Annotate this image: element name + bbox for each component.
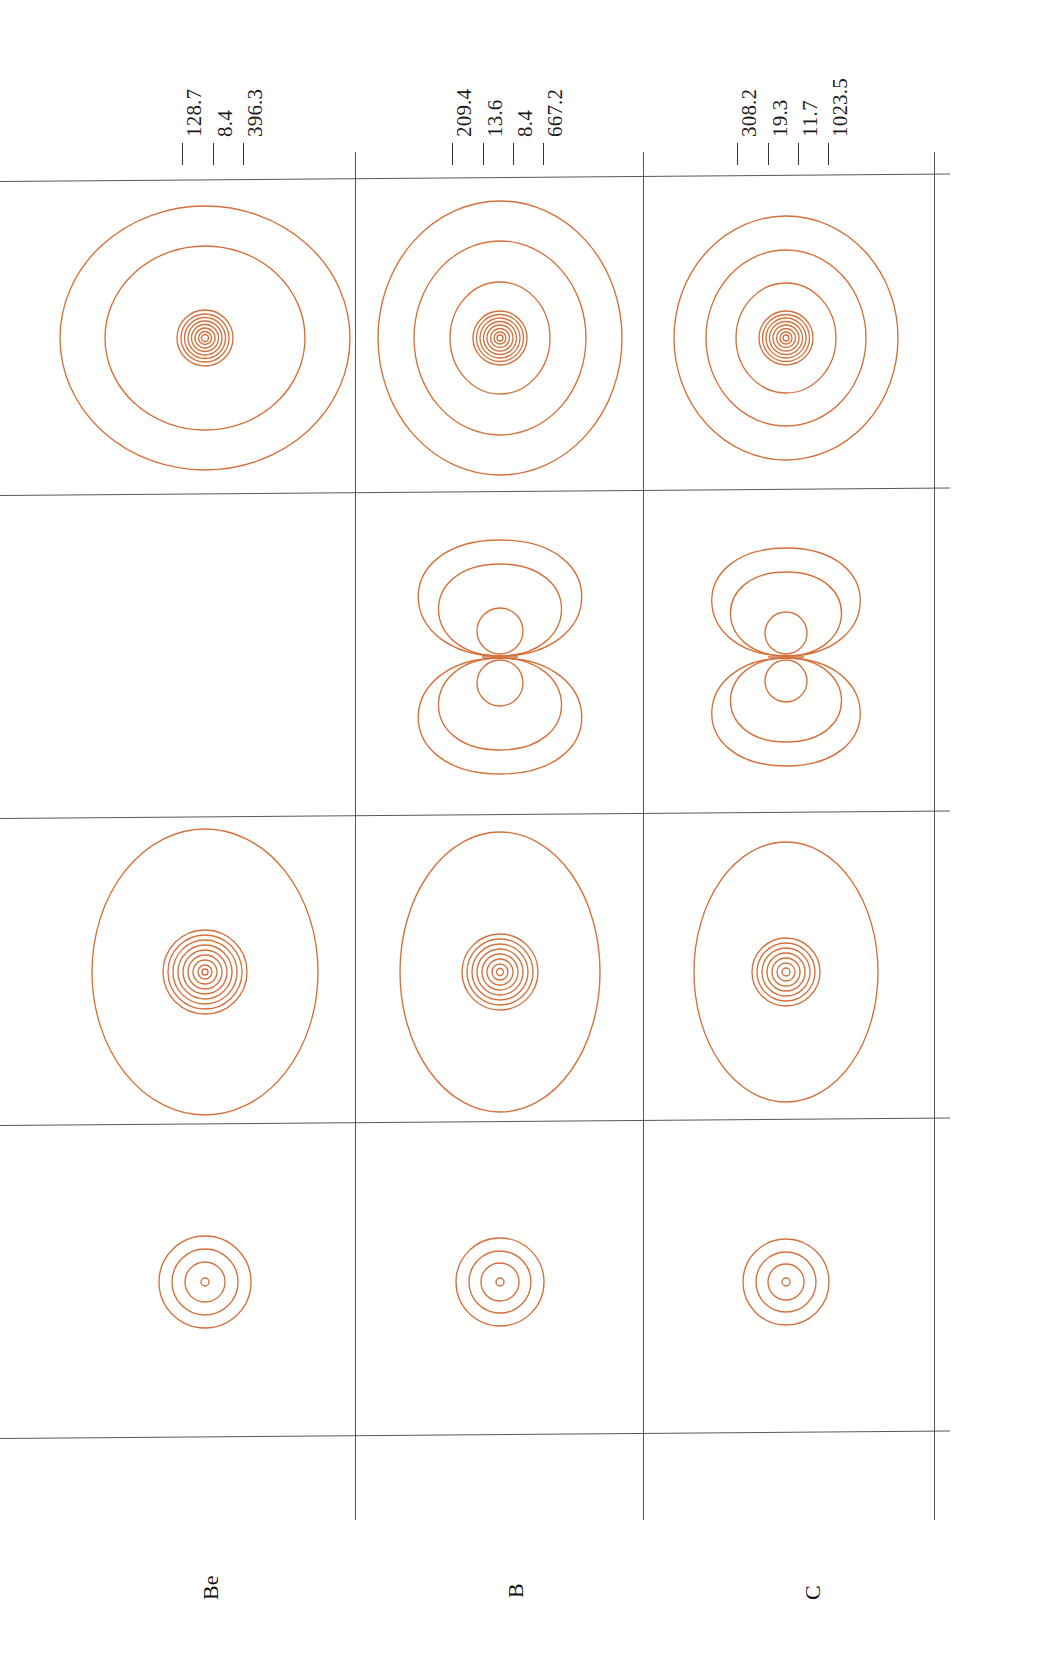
level-tick xyxy=(243,143,244,165)
level-tick xyxy=(768,143,769,165)
panel-be-col3-empty xyxy=(5,500,355,812)
level-tick xyxy=(737,143,738,165)
panel-be-col1 xyxy=(5,1130,355,1435)
panel-b-col1 xyxy=(358,1130,642,1435)
panel-b-col2 xyxy=(358,822,642,1122)
level-tick xyxy=(182,143,183,165)
level-label-b-2: 8.4 xyxy=(513,110,538,137)
row-label-c: C xyxy=(800,1585,826,1600)
level-label-be-1: 8.4 xyxy=(213,110,238,137)
level-label-c-3: 1023.5 xyxy=(828,78,853,137)
level-label-c-2: 11.7 xyxy=(798,100,823,137)
level-tick xyxy=(452,143,453,165)
level-tick xyxy=(513,143,514,165)
level-tick xyxy=(798,143,799,165)
panel-be-col2 xyxy=(5,822,355,1122)
row-label-b: B xyxy=(503,1583,529,1598)
level-label-b-1: 13.6 xyxy=(483,99,508,137)
level-label-c-0: 308.2 xyxy=(737,89,762,137)
panel-c-col3-dipole xyxy=(646,500,934,812)
panel-c-col1 xyxy=(646,1130,934,1435)
level-label-be-0: 128.7 xyxy=(182,89,207,137)
grid-rule-col-be-b xyxy=(355,152,356,1520)
panel-c-col2 xyxy=(646,822,934,1122)
level-label-be-2: 396.3 xyxy=(243,89,268,137)
level-tick xyxy=(213,143,214,165)
panel-b-col4 xyxy=(358,186,642,491)
level-label-c-1: 19.3 xyxy=(768,99,793,137)
row-label-be: Be xyxy=(198,1576,224,1600)
contour-figure: 128.7 8.4 396.3 209.4 13.6 8.4 667.2 308… xyxy=(0,0,1063,1667)
grid-rule-top xyxy=(0,174,950,182)
level-tick xyxy=(828,143,829,165)
grid-rule-col-c-end xyxy=(934,152,935,1520)
level-tick xyxy=(543,143,544,165)
level-tick xyxy=(483,143,484,165)
panel-c-col4 xyxy=(646,186,934,491)
level-label-b-0: 209.4 xyxy=(452,89,477,137)
level-label-b-3: 667.2 xyxy=(543,89,568,137)
grid-rule-col-b-c xyxy=(643,152,644,1520)
panel-be-col4 xyxy=(5,186,355,491)
panel-b-col3-dipole xyxy=(358,500,642,812)
